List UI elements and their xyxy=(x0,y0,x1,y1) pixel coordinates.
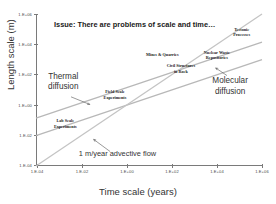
annotation-nuclear-waste-repositories: Nuclear WasteRepositories xyxy=(204,50,230,61)
annotation-line: Thermal xyxy=(48,72,78,82)
y-tick-label: 1.E+06 xyxy=(18,12,32,17)
y-tick-label: 1.E+00 xyxy=(18,102,32,107)
annotation-line: in Rock xyxy=(167,69,195,75)
annotation-line: diffusion xyxy=(212,87,248,97)
annotation-line: 1 m/year advective flow xyxy=(79,149,156,158)
x-tick-mark xyxy=(127,164,128,168)
y-tick-mark xyxy=(34,105,38,106)
x-tick-label: 1.E-04 xyxy=(31,169,44,174)
annotation-lab-scale-experiments: Lab ScaleExperiments xyxy=(54,118,77,129)
x-tick-mark xyxy=(172,164,173,168)
annotation-thermal-diffusion: Thermaldiffusion xyxy=(48,72,78,93)
annotation-1-m-year-advective-flow: 1 m/year advective flow xyxy=(79,149,156,158)
annotation-line: Lab Scale xyxy=(54,118,77,124)
annotation-molecular-diffusion: Moleculardiffusion xyxy=(212,76,248,97)
x-tick-mark xyxy=(37,164,38,168)
x-tick-label: 1.E+00 xyxy=(120,169,134,174)
annotation-line: Experiments xyxy=(54,124,77,130)
annotation-line: Experiments xyxy=(104,95,127,101)
x-tick-label: 1.E+04 xyxy=(210,169,224,174)
y-tick-label: 1.E-04 xyxy=(19,163,32,168)
y-tick-label: 1.E-02 xyxy=(19,132,32,137)
x-tick-label: 1.E+02 xyxy=(165,169,179,174)
annotation-line: Processes xyxy=(233,32,250,38)
x-tick-label: 1.E+06 xyxy=(255,169,269,174)
annotation-line: Molecular xyxy=(212,76,248,86)
annotation-civil-structures-in-rock: Civil Structuresin Rock xyxy=(167,63,195,74)
y-tick-mark xyxy=(34,14,38,15)
annotation-line: diffusion xyxy=(48,82,78,92)
annotation-field-scale-experiments: Field ScaleExperiments xyxy=(104,89,127,100)
annotation-line: Field Scale xyxy=(104,89,127,95)
annotation-line: Repositories xyxy=(204,55,230,61)
chart-container: Issue: There are problems of scale and t… xyxy=(0,0,276,204)
x-axis-title: Time scale (years) xyxy=(0,186,276,197)
y-tick-label: 1.E+04 xyxy=(18,42,32,47)
x-tick-label: 1.E-02 xyxy=(76,169,89,174)
y-tick-label: 1.E+02 xyxy=(18,72,32,77)
annotation-mines-quarries: Mines & Quarries xyxy=(146,52,179,58)
annotation-line: Mines & Quarries xyxy=(146,52,179,58)
x-tick-mark xyxy=(217,164,218,168)
x-tick-mark xyxy=(262,164,263,168)
y-tick-mark xyxy=(34,44,38,45)
annotation-tectonic-processes: TectonicProcesses xyxy=(233,27,250,38)
y-tick-mark xyxy=(34,135,38,136)
y-axis-title: Length scale (m) xyxy=(5,19,16,90)
x-tick-mark xyxy=(82,164,83,168)
y-tick-mark xyxy=(34,74,38,75)
